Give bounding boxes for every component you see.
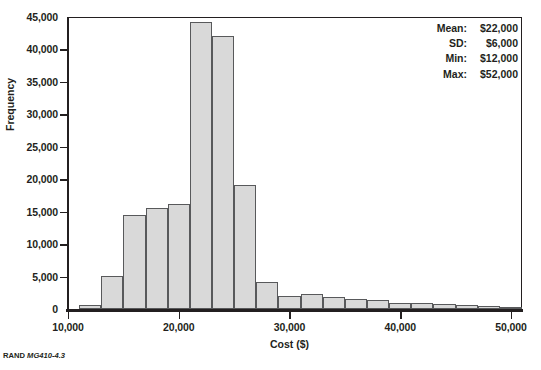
- statistics-value: $52,000: [467, 67, 518, 82]
- y-axis-tick: [60, 114, 68, 115]
- histogram-bar: [323, 297, 345, 309]
- statistics-key: SD:: [433, 36, 467, 51]
- histogram-bar: [278, 296, 300, 309]
- histogram-bar: [367, 300, 389, 309]
- histogram-bar: [345, 299, 367, 309]
- histogram-bar: [478, 306, 500, 309]
- histogram-bar: [101, 276, 123, 309]
- y-axis-tick: [60, 147, 68, 148]
- statistics-value: $12,000: [467, 51, 518, 66]
- x-axis-tick: [400, 311, 401, 319]
- histogram-bar: [123, 215, 145, 309]
- x-axis-tick-label: 50,000: [495, 321, 527, 333]
- statistics-row: SD:$6,000: [433, 36, 518, 51]
- histogram-bar: [234, 185, 256, 309]
- y-axis-labels: 05,00010,00015,00020,00025,00030,00035,0…: [0, 0, 58, 370]
- y-axis-tick-label: 0: [6, 303, 58, 315]
- x-axis-tick: [68, 311, 69, 319]
- histogram-bar: [456, 305, 478, 309]
- histogram-bar: [411, 303, 433, 309]
- histogram-bar: [256, 282, 278, 309]
- y-axis-tick-label: 45,000: [6, 11, 58, 23]
- histogram-bar: [389, 303, 411, 309]
- statistics-annotation: Mean:$22,000SD:$6,000Min:$12,000Max:$52,…: [433, 21, 518, 82]
- y-axis-tick: [60, 244, 68, 245]
- x-axis-tick: [179, 311, 180, 319]
- statistics-value: $6,000: [467, 36, 518, 51]
- y-axis-tick: [60, 212, 68, 213]
- histogram-bar: [190, 22, 212, 309]
- histogram-bar: [168, 204, 190, 309]
- statistics-key: Mean:: [433, 21, 467, 36]
- histogram-bar: [79, 305, 101, 309]
- y-axis-tick-label: 5,000: [6, 271, 58, 283]
- statistics-value: $22,000: [467, 21, 518, 36]
- y-axis-tick: [60, 82, 68, 83]
- y-axis-tick-label: 20,000: [6, 173, 58, 185]
- x-axis-tick-label: 40,000: [384, 321, 416, 333]
- y-axis-tick-label: 15,000: [6, 206, 58, 218]
- y-axis-tick-label: 25,000: [6, 141, 58, 153]
- statistics-row: Max:$52,000: [433, 67, 518, 82]
- y-axis-tick-label: 10,000: [6, 238, 58, 250]
- y-axis-tick: [60, 277, 68, 278]
- x-axis-line: [66, 309, 523, 312]
- x-axis-tick-label: 10,000: [52, 321, 84, 333]
- figure-credit: RAND MG410-4.3: [3, 351, 65, 360]
- histogram-bar: [500, 307, 522, 309]
- statistics-row: Min:$12,000: [433, 51, 518, 66]
- y-axis-tick: [60, 179, 68, 180]
- histogram-bar: [212, 36, 234, 309]
- credit-id: MG410-4.3: [27, 351, 65, 360]
- histogram-bar: [146, 208, 168, 309]
- x-axis-tick-label: 20,000: [163, 321, 195, 333]
- histogram-bar: [301, 294, 323, 309]
- statistics-row: Mean:$22,000: [433, 21, 518, 36]
- histogram-figure: 05,00010,00015,00020,00025,00030,00035,0…: [0, 0, 541, 370]
- x-axis-title: Cost ($): [0, 338, 541, 350]
- statistics-key: Max:: [433, 67, 467, 82]
- statistics-key: Min:: [433, 51, 467, 66]
- credit-label: RAND: [3, 351, 25, 360]
- x-axis-tick: [511, 311, 512, 319]
- x-axis-tick: [289, 311, 290, 319]
- y-axis-tick-label: 40,000: [6, 43, 58, 55]
- y-axis-title: Frequency: [4, 78, 16, 131]
- y-axis-tick: [60, 49, 68, 50]
- x-axis-tick-label: 30,000: [274, 321, 306, 333]
- histogram-bar: [433, 304, 455, 309]
